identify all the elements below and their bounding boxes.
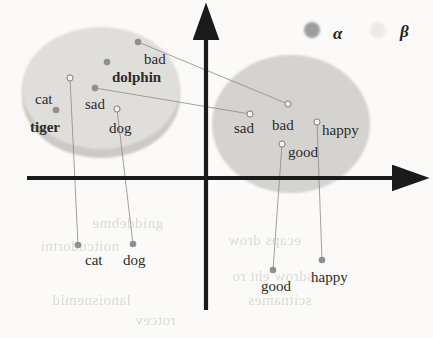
point-β-good bbox=[279, 141, 285, 147]
figure-canvas bbox=[0, 0, 433, 338]
legend-label-alpha: α bbox=[333, 24, 342, 44]
point-α-cat bbox=[75, 242, 82, 249]
point-label-cat: cat bbox=[35, 92, 52, 107]
point-label-good: good bbox=[261, 279, 291, 294]
point-label-bad: bad bbox=[144, 52, 166, 67]
point-label-tiger: tiger bbox=[30, 120, 60, 135]
point-α-tiger bbox=[53, 107, 60, 114]
point-α-dog bbox=[130, 241, 137, 248]
point-α-bad bbox=[135, 39, 142, 46]
point-α-dolphin bbox=[104, 59, 111, 66]
point-α-happy bbox=[319, 257, 326, 264]
point-label-bad: bad bbox=[272, 118, 294, 133]
point-label-sad: sad bbox=[85, 97, 105, 112]
point-label-cat: cat bbox=[85, 253, 102, 268]
embedding-space-figure: noitatneserpergniddebmenoitcudortnilanoi… bbox=[0, 0, 433, 338]
point-β-cat bbox=[67, 75, 73, 81]
point-label-happy: happy bbox=[311, 270, 348, 285]
point-label-dog: dog bbox=[123, 253, 146, 268]
point-label-dog: dog bbox=[109, 121, 132, 136]
point-β-happy bbox=[314, 119, 320, 125]
legend-markers bbox=[304, 22, 386, 38]
point-β-sad bbox=[247, 111, 253, 117]
point-α-good bbox=[270, 267, 277, 274]
legend-label-beta: β bbox=[400, 22, 409, 42]
point-β-dog bbox=[114, 106, 120, 112]
legend-marker-beta bbox=[370, 22, 386, 38]
point-label-dolphin: dolphin bbox=[112, 70, 161, 85]
point-label-sad: sad bbox=[234, 121, 254, 136]
point-label-good: good bbox=[288, 145, 318, 160]
legend-marker-alpha bbox=[304, 22, 320, 38]
point-α-sad bbox=[92, 85, 99, 92]
point-label-happy: happy bbox=[322, 123, 359, 138]
point-β-bad bbox=[285, 101, 291, 107]
